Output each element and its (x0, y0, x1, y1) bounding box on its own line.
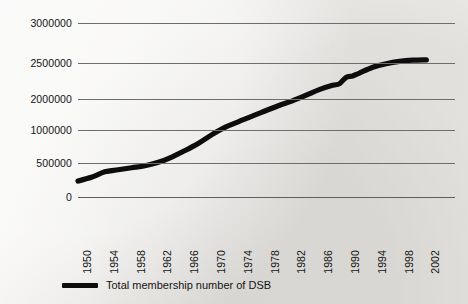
y-tick-label-0: 0 (66, 192, 72, 203)
x-tick-label-1958: 1958 (136, 250, 147, 274)
gridline-0 (78, 197, 455, 198)
x-tick-label-1978: 1978 (270, 250, 281, 274)
x-tick-label-1950: 1950 (82, 250, 93, 274)
x-tick-label-1954: 1954 (109, 250, 120, 274)
chart-legend: Total membership number of DSB (62, 279, 271, 291)
legend-label: Total membership number of DSB (106, 279, 271, 291)
x-tick-label-1998: 1998 (404, 250, 415, 274)
y-tick-label-2500000: 2500000 (30, 58, 72, 69)
y-tick-label-1000000: 1000000 (30, 125, 72, 136)
line-chart-figure: 30000002500000200000010000005000000 1950… (0, 0, 468, 304)
y-tick-label-3000000: 3000000 (30, 18, 72, 29)
y-axis: 30000002500000200000010000005000000 (0, 18, 72, 202)
plot-area (78, 18, 455, 202)
x-tick-label-1986: 1986 (323, 250, 334, 274)
x-tick-label-1990: 1990 (350, 250, 361, 274)
x-tick-label-1970: 1970 (216, 250, 227, 274)
gridline-3000000 (78, 23, 455, 24)
y-tick-label-2000000: 2000000 (30, 94, 72, 105)
x-tick-label-1966: 1966 (189, 250, 200, 274)
legend-line-swatch (62, 283, 98, 288)
x-tick-label-2002: 2002 (430, 250, 441, 274)
x-tick-label-1982: 1982 (296, 250, 307, 274)
data-series-layer (78, 18, 455, 202)
y-tick-label-500000: 500000 (36, 158, 72, 169)
gridline-2500000 (78, 63, 455, 64)
x-tick-label-1974: 1974 (243, 250, 254, 274)
gridline-2000000 (78, 99, 455, 100)
x-axis: 1950195419581962196619701974197819821986… (78, 206, 455, 252)
gridline-500000 (78, 163, 455, 164)
gridline-1000000 (78, 130, 455, 131)
x-tick-label-1962: 1962 (162, 250, 173, 274)
x-tick-label-1994: 1994 (377, 250, 388, 274)
